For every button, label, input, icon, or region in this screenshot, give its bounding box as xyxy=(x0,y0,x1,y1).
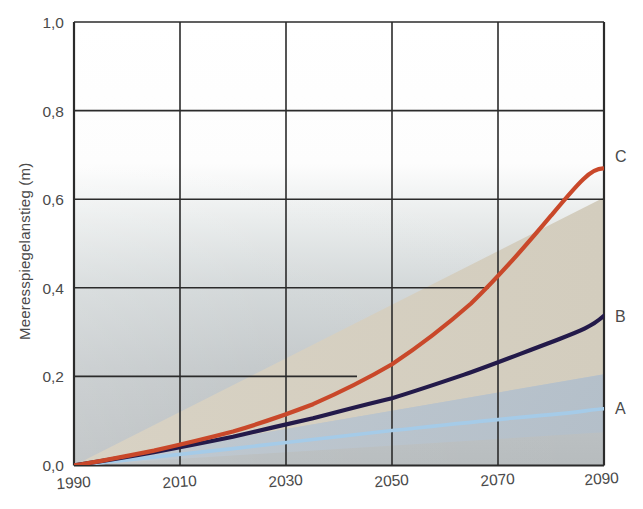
x-tick-label-2010: 2010 xyxy=(162,472,198,491)
series-label-A: A xyxy=(615,400,626,417)
y-tick-label-0-6: 0,6 xyxy=(42,191,64,208)
y-axis-title: Meeresspiegelanstieg (m) xyxy=(16,163,33,340)
x-tick-label-2050: 2050 xyxy=(374,471,410,490)
x-tick-label-2030: 2030 xyxy=(268,471,304,490)
x-tick-label-2090: 2090 xyxy=(584,469,620,488)
y-tick-label-0-2: 0,2 xyxy=(42,368,64,385)
series-label-B: B xyxy=(615,308,626,325)
y-tick-labels: 1,0 0,8 0,6 0,4 0,2 0,0 xyxy=(42,14,64,474)
series-label-C: C xyxy=(615,148,627,165)
y-tick-label-0-4: 0,4 xyxy=(42,280,64,297)
x-tick-label-1990: 1990 xyxy=(56,473,92,492)
x-tick-labels: 1990 2010 2030 2050 2070 2090 xyxy=(56,469,620,492)
x-tick-label-2070: 2070 xyxy=(480,470,516,489)
series-end-labels: C B A xyxy=(615,148,627,417)
chart-canvas: 1,0 0,8 0,6 0,4 0,2 0,0 1990 2010 2030 2… xyxy=(0,0,643,509)
sea-level-rise-chart-figure: 1,0 0,8 0,6 0,4 0,2 0,0 1990 2010 2030 2… xyxy=(0,0,643,509)
y-tick-label-1-0: 1,0 xyxy=(42,14,64,31)
y-tick-label-0-8: 0,8 xyxy=(42,103,64,120)
y-tick-label-0-0: 0,0 xyxy=(42,457,64,474)
